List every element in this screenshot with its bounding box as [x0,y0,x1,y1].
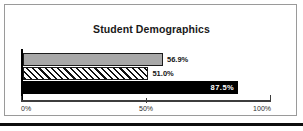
bar-series-1 [23,53,163,66]
plot-area: 0% 50% 100% 56.9% 51.0% 87.5% [21,49,271,101]
x-tick-mark-100 [270,95,271,102]
bar-value-label-series-3: 87.5% [210,81,234,94]
bar-value-label-series-2: 51.0% [152,67,173,80]
bar-value-label-series-1: 56.9% [167,53,188,66]
x-tick-mark-0 [21,96,22,102]
chart-frame: Student Demographics 0% 50% 100% 56.9% 5… [4,4,297,116]
x-tick-label-50: 50% [139,105,153,112]
bar-series-2 [23,67,148,80]
bar-series-3 [23,81,238,94]
x-tick-label-100: 100% [253,105,271,112]
x-tick-label-0: 0% [21,105,31,112]
x-tick-mark-50 [146,98,147,103]
bottom-divider [0,123,303,126]
chart-figure: Student Demographics 0% 50% 100% 56.9% 5… [0,0,303,131]
chart-title: Student Demographics [5,23,298,35]
